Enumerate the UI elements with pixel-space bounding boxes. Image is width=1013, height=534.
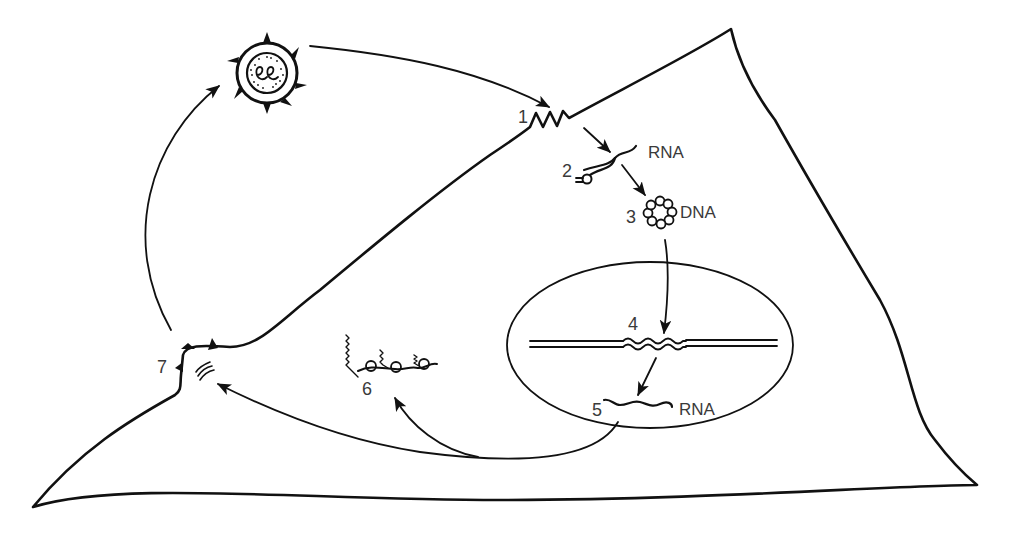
rna-label-2: RNA [679,400,716,419]
step-7-label: 7 [157,357,167,377]
arrow-rna-to-polysome [395,398,478,457]
arrow-virus-to-attachment [310,46,549,107]
step-2-label: 2 [562,161,572,181]
retrovirus-life-cycle-diagram: 1 2 RNA 3 DNA 4 [0,0,1013,534]
cell-outline [33,29,977,507]
step-1-label: 1 [518,107,528,127]
polysome-icon [346,335,437,377]
arrow-entry-to-rna [584,128,610,152]
arrow-rna-to-dna [622,165,645,195]
rna-label-1: RNA [648,143,685,162]
step-3-label: 3 [626,207,636,227]
arrow-dna-to-integration [664,240,668,333]
virus-particle-icon [227,32,307,114]
dna-label: DNA [680,203,717,222]
step-6-label: 6 [362,379,372,399]
arrow-integration-to-rna [638,358,656,395]
circular-dna-icon [644,197,677,229]
arrow-rna-to-budding [218,384,618,459]
step-4-label: 4 [628,314,638,334]
integrated-provirus-wave [623,339,686,350]
transcribed-rna-icon [604,400,672,407]
arrow-budding-to-virus [145,86,219,330]
step-5-label: 5 [592,400,602,420]
viral-rna-icon [576,146,636,184]
